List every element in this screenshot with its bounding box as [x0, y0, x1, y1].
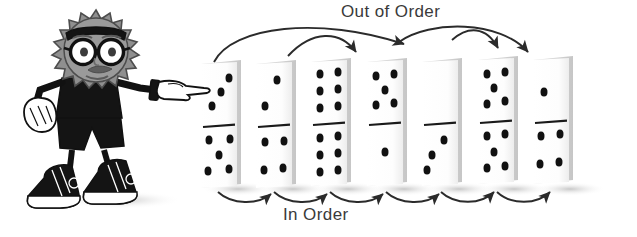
out-of-order-arrows [214, 27, 528, 62]
mascot-sneaker-right [83, 160, 137, 204]
mascot-head [52, 10, 139, 88]
out-of-order-arrow-1 [214, 28, 404, 62]
domino-6 [478, 56, 518, 184]
domino-4 [367, 58, 407, 186]
mascot-sneaker-left [27, 165, 80, 208]
in-order-label: In Order [283, 205, 349, 225]
mascot-glove-left [24, 98, 56, 132]
mascot-left-arm [24, 82, 62, 132]
domino-5 [422, 58, 462, 186]
mascot-character [24, 10, 210, 208]
domino-1 [201, 60, 241, 188]
domino-7 [533, 56, 573, 184]
out-of-order-arrow-4 [452, 30, 498, 48]
domino-3 [311, 58, 351, 186]
mascot-pointing-arm [116, 80, 210, 101]
out-of-order-arrow-2 [288, 36, 356, 56]
domino-2 [256, 60, 296, 188]
illustration-svg [0, 0, 637, 237]
out-of-order-label: Out of Order [341, 2, 440, 22]
out-of-order-arrow-3 [399, 27, 528, 52]
illustration-canvas: Out of Order In Order [0, 0, 637, 237]
